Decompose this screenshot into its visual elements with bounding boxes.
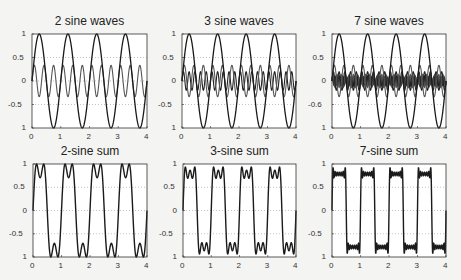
y-tick-label: -0.5 (9, 229, 23, 238)
panel-p4 (33, 164, 147, 257)
y-tick-label: 1 (322, 159, 326, 168)
x-tick-label: 1 (358, 132, 362, 141)
y-tick-label: 0 (22, 76, 26, 85)
x-tick-label: 4 (144, 261, 148, 270)
x-tick-label: 3 (415, 132, 419, 141)
x-tick-label: 3 (265, 261, 269, 270)
x-tick-label: 2 (386, 132, 390, 141)
x-tick-label: 2 (237, 261, 241, 270)
y-tick-label: 0 (23, 206, 27, 215)
x-tick-label: 0 (29, 132, 33, 141)
x-tick-label: 2 (87, 132, 91, 141)
y-tick-label: -0.5 (158, 100, 172, 109)
y-tick-label: 0 (322, 76, 326, 85)
y-tick-label: 1 (172, 123, 176, 132)
y-tick-label: 0.5 (14, 182, 25, 191)
panel-p3 (332, 34, 446, 128)
y-tick-label: -0.5 (308, 229, 322, 238)
x-tick-label: 1 (358, 261, 362, 270)
y-tick-label: -0.5 (159, 229, 173, 238)
y-tick-label: 1 (172, 29, 176, 38)
y-tick-label: 1 (322, 252, 326, 261)
plot-canvas (0, 0, 461, 280)
x-tick-label: 0 (329, 132, 333, 141)
x-tick-label: 1 (208, 132, 212, 141)
y-tick-label: 0 (173, 206, 177, 215)
x-tick-label: 3 (115, 132, 119, 141)
y-tick-label: 1 (322, 123, 326, 132)
y-tick-label: 1 (22, 29, 26, 38)
x-tick-label: 0 (329, 261, 333, 270)
y-tick-label: 0.5 (313, 182, 324, 191)
y-tick-label: 1 (173, 159, 177, 168)
y-tick-label: 1 (322, 29, 326, 38)
x-tick-label: 1 (58, 132, 62, 141)
y-tick-label: 0.5 (313, 53, 324, 62)
y-tick-label: 0.5 (13, 53, 24, 62)
y-tick-label: 0.5 (164, 182, 175, 191)
x-tick-label: 2 (236, 132, 240, 141)
x-tick-label: 4 (443, 132, 447, 141)
panel-title: 3 sine waves (189, 14, 289, 28)
x-tick-label: 3 (415, 261, 419, 270)
y-tick-label: 0.5 (163, 53, 174, 62)
x-tick-label: 4 (293, 261, 297, 270)
panel-title: 2-sine sum (40, 144, 140, 158)
y-tick-label: 0 (172, 76, 176, 85)
x-tick-label: 0 (30, 261, 34, 270)
x-tick-label: 0 (179, 132, 183, 141)
x-tick-label: 3 (265, 132, 269, 141)
x-tick-label: 2 (87, 261, 91, 270)
y-tick-label: -0.5 (8, 100, 22, 109)
panel-title: 7 sine waves (339, 14, 439, 28)
panel-title: 7-sine sum (339, 144, 439, 158)
x-tick-label: 1 (59, 261, 63, 270)
x-tick-label: 0 (180, 261, 184, 270)
y-tick-label: 1 (173, 252, 177, 261)
x-tick-label: 4 (293, 132, 297, 141)
y-tick-label: 0 (322, 206, 326, 215)
x-tick-label: 4 (443, 261, 447, 270)
panel-p2 (182, 34, 296, 128)
panel-title: 2 sine waves (40, 14, 140, 28)
x-tick-label: 2 (386, 261, 390, 270)
x-tick-label: 3 (116, 261, 120, 270)
panel-p5 (183, 164, 296, 257)
panel-p1 (32, 34, 147, 128)
y-tick-label: 1 (23, 252, 27, 261)
y-tick-label: -0.6 (308, 100, 322, 109)
y-tick-label: 1 (22, 123, 26, 132)
x-tick-label: 4 (144, 132, 148, 141)
panel-p6 (332, 164, 446, 257)
x-tick-label: 1 (208, 261, 212, 270)
panel-title: 3-sine sum (190, 144, 290, 158)
y-tick-label: 1 (23, 159, 27, 168)
